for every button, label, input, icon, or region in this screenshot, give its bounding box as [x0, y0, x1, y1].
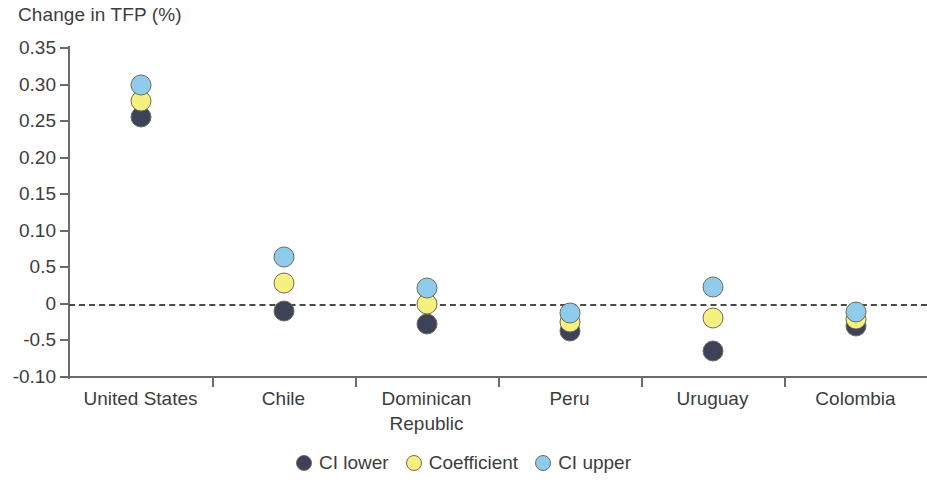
data-point-ci-upper-2 — [416, 277, 437, 298]
y-axis-title: Change in TFP (%) — [18, 4, 182, 26]
data-point-ci-upper-0 — [130, 75, 151, 96]
legend-swatch-icon — [406, 455, 422, 471]
x-category-label: Dominican Republic — [382, 386, 472, 436]
data-point-ci-lower-2 — [416, 313, 437, 334]
y-tick-label: 0.15 — [19, 183, 56, 205]
x-tick-mark — [498, 378, 500, 387]
data-point-ci-upper-3 — [559, 302, 580, 323]
y-tick-label: 0.35 — [19, 37, 56, 59]
data-point-coefficient-1 — [273, 272, 294, 293]
y-tick-mark — [60, 339, 69, 341]
y-tick-label: -0.10 — [13, 366, 56, 388]
y-tick-label: 0.10 — [19, 220, 56, 242]
y-tick-label: -0.5 — [23, 329, 56, 351]
y-tick-mark — [60, 230, 69, 232]
legend-label: Coefficient — [429, 452, 518, 474]
x-category-label: Peru — [549, 386, 589, 411]
data-point-coefficient-4 — [702, 307, 723, 328]
y-tick-mark — [60, 193, 69, 195]
y-tick-mark — [60, 157, 69, 159]
data-point-ci-upper-4 — [702, 277, 723, 298]
y-tick-mark — [60, 376, 69, 378]
tfp-scatter-chart: Change in TFP (%) 0.350.300.250.200.150.… — [0, 0, 927, 486]
x-category-label: Colombia — [815, 386, 895, 411]
legend-label: CI lower — [319, 452, 389, 474]
y-tick-label: 0.20 — [19, 147, 56, 169]
legend-item-ci-upper[interactable]: CI upper — [535, 452, 631, 474]
legend-item-ci-lower[interactable]: CI lower — [296, 452, 389, 474]
x-tick-mark — [641, 378, 643, 387]
x-tick-mark — [784, 378, 786, 387]
x-category-label: United States — [83, 386, 197, 411]
x-tick-mark — [212, 378, 214, 387]
legend-swatch-icon — [535, 455, 551, 471]
data-point-ci-lower-4 — [702, 340, 723, 361]
y-tick-mark — [60, 84, 69, 86]
legend-label: CI upper — [558, 452, 631, 474]
x-tick-mark — [355, 378, 357, 387]
legend-swatch-icon — [296, 455, 312, 471]
data-point-ci-lower-1 — [273, 301, 294, 322]
y-tick-label: 0.30 — [19, 74, 56, 96]
data-point-ci-upper-5 — [845, 301, 866, 322]
y-tick-mark — [60, 303, 69, 305]
chart-legend: CI lowerCoefficientCI upper — [0, 452, 927, 474]
x-category-label: Chile — [262, 386, 305, 411]
plot-area — [69, 48, 927, 377]
y-tick-label: 0.25 — [19, 110, 56, 132]
legend-item-coefficient[interactable]: Coefficient — [406, 452, 518, 474]
y-tick-label: 0 — [45, 293, 56, 315]
data-point-ci-upper-1 — [273, 247, 294, 268]
y-tick-mark — [60, 266, 69, 268]
y-tick-mark — [60, 47, 69, 49]
y-tick-mark — [60, 120, 69, 122]
y-tick-label: 0.5 — [30, 256, 56, 278]
x-category-label: Uruguay — [677, 386, 749, 411]
